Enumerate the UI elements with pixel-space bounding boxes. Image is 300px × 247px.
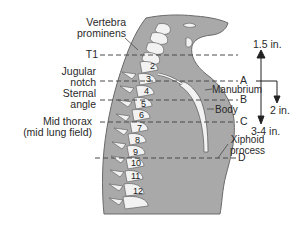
- label-line: prominens: [74, 28, 126, 39]
- level-marker-b: B: [240, 94, 247, 105]
- svg-text:11: 11: [131, 171, 140, 181]
- label-sternal-angle: Sternal angle: [52, 88, 96, 110]
- label-mid-thorax: Mid thorax (mid lung field): [10, 116, 92, 138]
- label-xiphoid-process: Xiphoid process: [230, 134, 265, 156]
- ear: [186, 38, 192, 47]
- label-line: (mid lung field): [10, 127, 92, 138]
- svg-text:3: 3: [146, 74, 151, 84]
- measure-up: 1.5 in.: [253, 39, 282, 50]
- svg-text:10: 10: [131, 158, 141, 168]
- svg-text:12: 12: [133, 186, 143, 196]
- svg-text:6: 6: [139, 110, 144, 120]
- level-marker-c: C: [240, 116, 248, 127]
- label-manubrium: Manubrium: [212, 84, 262, 95]
- measure-down-short: 2 in.: [270, 105, 290, 116]
- label-line: process: [230, 145, 265, 156]
- thorax-diagram: 2 3 4 5 6 7 8 9 10 11 12: [0, 0, 300, 247]
- svg-text:9: 9: [133, 147, 138, 157]
- level-marker-d: D: [238, 152, 246, 163]
- svg-text:8: 8: [135, 135, 140, 145]
- label-jugular-notch: Jugular notch: [52, 66, 96, 88]
- label-vertebra-prominens: Vertebra prominens: [74, 17, 126, 39]
- svg-text:7: 7: [137, 123, 142, 133]
- label-t1: T1: [78, 49, 98, 60]
- svg-text:2: 2: [150, 61, 155, 71]
- svg-text:4: 4: [144, 86, 149, 96]
- measure-down-long: 3-4 in.: [251, 126, 280, 137]
- label-line: angle: [52, 99, 96, 110]
- label-body: Body: [215, 104, 238, 115]
- level-marker-a: A: [240, 75, 247, 86]
